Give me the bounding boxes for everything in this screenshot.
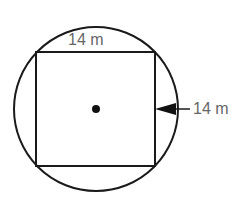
top-side-label: 14 m (68, 32, 104, 48)
right-side-label: 14 m (193, 101, 229, 117)
center-dot (92, 105, 100, 113)
arrow-head-icon (155, 103, 176, 115)
